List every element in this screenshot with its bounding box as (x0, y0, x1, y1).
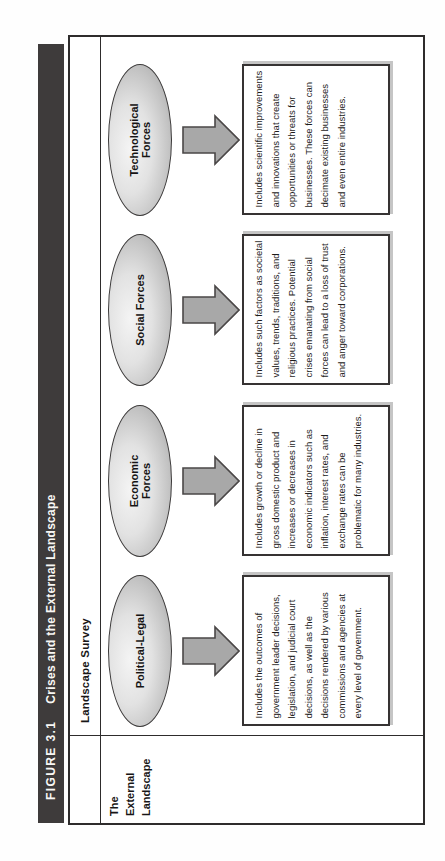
force-ellipse-technological: Technological Forces (108, 64, 172, 216)
force-description-economic: Includes growth or decline in gross dome… (242, 406, 390, 557)
down-arrow-icon (182, 625, 240, 677)
force-ellipse-social: Social Forces (108, 234, 172, 386)
figure-number: FIGURE 3.1 (44, 721, 58, 800)
economic-forces-column: Economic Forces Includes growth or decli… (101, 394, 423, 568)
force-description-technological: Includes scientific improvements and inn… (242, 65, 390, 216)
political-legal-column: Political-Legal Includes the outcomes of… (101, 564, 423, 738)
force-description-social: Includes such factors as societal values… (242, 235, 390, 386)
figure-3-1: FIGURE 3.1Crises and the External Landsc… (0, 0, 445, 861)
external-landscape-row-label: The External Landscape (101, 735, 423, 823)
force-description-political-legal: Includes the outcomes of government lead… (242, 576, 390, 727)
table-corner-cell (70, 735, 101, 823)
force-ellipse-political-legal: Political-Legal (108, 575, 172, 727)
down-arrow-icon (182, 114, 240, 166)
figure-title-bar: FIGURE 3.1Crises and the External Landsc… (38, 44, 64, 823)
landscape-table: Landscape Survey The External Landscape … (68, 35, 425, 825)
down-arrow-icon (182, 284, 240, 336)
technological-forces-column: Technological Forces Includes scientific… (101, 53, 423, 227)
figure-title: Crises and the External Landscape (44, 494, 58, 703)
social-forces-column: Social Forces Includes such factors as s… (101, 223, 423, 397)
forces-diagram-area: Political-Legal Includes the outcomes of… (101, 37, 423, 735)
landscape-survey-header: Landscape Survey (70, 37, 101, 735)
scanned-figure-page: FIGURE 3.1Crises and the External Landsc… (0, 0, 445, 861)
down-arrow-icon (182, 455, 240, 507)
force-ellipse-economic: Economic Forces (108, 405, 172, 557)
